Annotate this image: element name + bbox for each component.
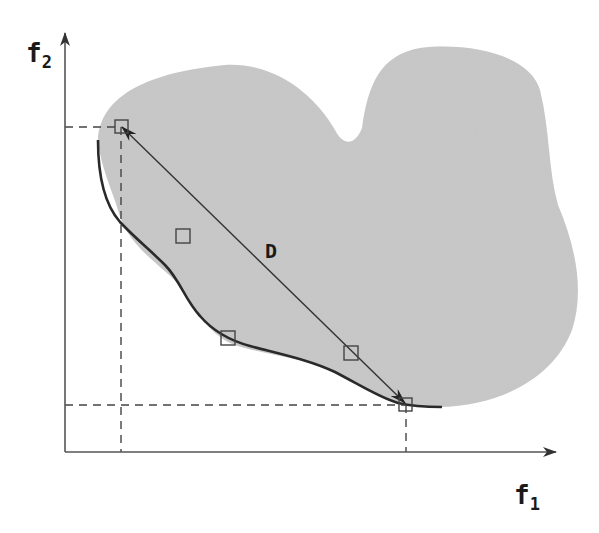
x-axis-label-subscript: 1 bbox=[530, 494, 540, 514]
x-axis-label: f1 bbox=[514, 482, 540, 513]
x-axis-label-text: f bbox=[514, 480, 530, 510]
feasible-region bbox=[98, 47, 578, 408]
y-axis-label: f2 bbox=[26, 40, 52, 71]
distance-label: D bbox=[265, 241, 277, 261]
y-axis-label-text: f bbox=[26, 38, 42, 68]
pareto-diagram bbox=[0, 0, 599, 533]
y-axis-label-subscript: 2 bbox=[42, 52, 52, 72]
